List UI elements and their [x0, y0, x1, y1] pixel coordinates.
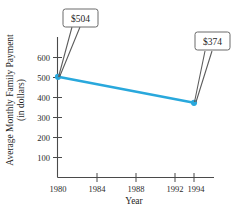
- y-axis-title-line2: (in dollars): [16, 79, 27, 121]
- callout-leader-left: [59, 27, 81, 77]
- callout-leader-right: [195, 51, 213, 102]
- callout-label-left: $504: [71, 14, 90, 24]
- y-tick-label-600: 600: [37, 53, 50, 63]
- y-tick-label-300: 300: [37, 113, 50, 123]
- y-tick-label-400: 400: [37, 93, 50, 103]
- x-tick-label-1994: 1994: [188, 184, 206, 194]
- y-axis-title-line1: Average Monthly Family Payment: [5, 34, 15, 166]
- y-tick-label-100: 100: [37, 153, 50, 163]
- x-tick-label-1992: 1992: [167, 184, 184, 194]
- line-chart: Average Monthly Family Payment (in dolla…: [0, 0, 238, 207]
- x-axis-title: Year: [125, 196, 143, 206]
- x-tick-label-1984: 1984: [89, 184, 107, 194]
- callout-label-right: $374: [203, 37, 222, 47]
- y-tick-label-200: 200: [37, 133, 50, 143]
- data-series-line: [58, 77, 194, 103]
- chart-figure: Average Monthly Family Payment (in dolla…: [0, 0, 238, 207]
- x-tick-label-1988: 1988: [128, 184, 145, 194]
- y-tick-label-500: 500: [37, 73, 50, 83]
- x-tick-label-1980: 1980: [50, 184, 67, 194]
